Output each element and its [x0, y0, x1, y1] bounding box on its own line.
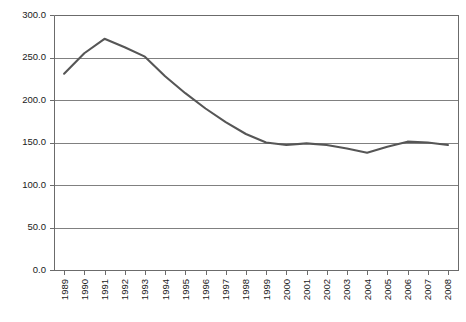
- x-axis-tick-label: 2007: [422, 279, 433, 300]
- x-axis-tick-label: 2001: [301, 279, 312, 300]
- x-axis-tick-label: 1990: [79, 279, 90, 300]
- x-axis-tick-label: 2003: [341, 279, 352, 300]
- y-axis-tick-label: 250.0: [22, 51, 46, 62]
- x-axis-tick-label: 2004: [362, 279, 373, 300]
- x-axis-tick-label: 2002: [321, 279, 332, 300]
- y-axis-tick-label: 150.0: [22, 136, 46, 147]
- x-axis-tick-label: 2000: [281, 279, 292, 300]
- y-axis-tick-label: 200.0: [22, 94, 46, 105]
- x-axis-tick-label: 1989: [59, 279, 70, 300]
- x-axis-tick-label: 1998: [240, 279, 251, 300]
- x-axis-tick-label: 1997: [220, 279, 231, 300]
- x-axis-tick-label: 1991: [99, 279, 110, 300]
- x-axis-tick-label: 1995: [180, 279, 191, 300]
- x-axis-tick-label: 1994: [160, 279, 171, 300]
- y-axis-tick-label: 50.0: [28, 221, 47, 232]
- x-axis-tick-label: 2006: [402, 279, 413, 300]
- y-axis-tick-label: 100.0: [22, 179, 46, 190]
- x-axis-tick-label: 1992: [119, 279, 130, 300]
- x-axis-tick-label: 2005: [382, 279, 393, 300]
- x-axis-tick-label: 1996: [200, 279, 211, 300]
- chart-canvas: 0.050.0100.0150.0200.0250.0300.0 1989199…: [0, 0, 466, 322]
- x-axis-tick-label: 1999: [261, 279, 272, 300]
- y-axis-tick-label: 300.0: [22, 9, 46, 20]
- x-axis-tick-label: 1993: [139, 279, 150, 300]
- x-axis-tick-label: 2008: [442, 279, 453, 300]
- line-chart: 0.050.0100.0150.0200.0250.0300.0 1989199…: [0, 0, 466, 322]
- y-axis-tick-label: 0.0: [33, 264, 46, 275]
- chart-background: [0, 0, 466, 322]
